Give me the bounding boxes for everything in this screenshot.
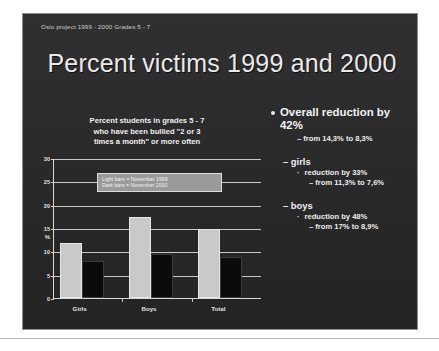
bullet-boys-detail-text: – from 17% to 8,9% <box>309 222 378 231</box>
y-axis-tick-label: 0 <box>47 296 50 302</box>
y-axis-tick-label: 15 <box>44 226 50 232</box>
y-axis-tickmark <box>51 252 54 253</box>
y-axis-tickmark <box>51 206 54 207</box>
bullet-overall-detail: – from 14,3% to 8,3% <box>297 134 413 144</box>
square-bullet-icon: · <box>297 169 299 176</box>
chart-bar-girls-light <box>60 243 82 298</box>
x-axis-tickmark <box>192 299 193 302</box>
chart-gridline <box>54 159 261 160</box>
y-axis-tickmark <box>51 276 54 277</box>
chart-bar-total-dark <box>220 257 242 298</box>
bullet-dot-icon <box>271 111 275 115</box>
x-axis-tick-label: Girls <box>73 305 87 312</box>
chart-caption-line-2: who have been bullied "2 or 3 <box>43 127 251 138</box>
bullet-girls-detail-text: – from 11,3% to 7,6% <box>309 178 384 187</box>
chart-bar-total-light <box>198 229 220 298</box>
bullet-overall-reduction: Overall reduction by 42% <box>271 106 413 132</box>
legend-entry-dark: Dark bars = November 2000 <box>102 182 217 188</box>
y-axis-tick-label: 25 <box>44 179 50 185</box>
square-bullet-icon: · <box>297 213 299 220</box>
chart-caption-line-3: times a month" or more often <box>43 137 251 148</box>
chart-gridline <box>54 229 261 230</box>
bullet-overall-detail-text: – from 14,3% to 8,3% <box>297 134 373 143</box>
slide-header: Oslo project 1999 - 2000 Grades 5 - 7 <box>41 23 150 30</box>
chart-gridline <box>54 252 261 253</box>
bullet-boys-reduction: · reduction by 48% <box>297 212 413 222</box>
bullet-boys-label: – boys <box>283 200 313 211</box>
y-axis-tickmark <box>51 229 54 230</box>
y-axis-tick-label: 20 <box>44 203 50 209</box>
x-axis-tickmark <box>122 299 123 302</box>
chart-gridline <box>54 206 261 207</box>
y-axis-tickmark <box>51 299 54 300</box>
y-axis-tickmark <box>51 159 54 160</box>
chart-bar-girls-dark <box>82 261 104 298</box>
page-canvas: Oslo project 1999 - 2000 Grades 5 - 7 Pe… <box>0 0 439 351</box>
page-title: Percent victims 1999 and 2000 <box>39 49 405 78</box>
page-divider <box>0 338 439 339</box>
bullet-boys-reduction-text: reduction by 48% <box>304 212 367 221</box>
bar-chart: Percent students in grades 5 - 7 who hav… <box>31 102 271 327</box>
chart-bar-boys-dark <box>151 254 173 298</box>
bullet-overall-text: Overall reduction by 42% <box>280 106 390 131</box>
y-axis-tickmark <box>51 182 54 183</box>
bullet-girls: – girls <box>283 156 413 168</box>
bullet-girls-detail: – from 11,3% to 7,6% <box>309 178 413 188</box>
y-axis-tick-label: 10 <box>44 249 50 255</box>
bullet-boys-detail: – from 17% to 8,9% <box>309 222 413 232</box>
presentation-slide: Oslo project 1999 - 2000 Grades 5 - 7 Pe… <box>22 13 418 330</box>
x-axis-tick-label: Total <box>211 305 225 312</box>
bullet-list: Overall reduction by 42% – from 14,3% to… <box>271 106 413 232</box>
y-axis-tick-label: 5 <box>47 273 50 279</box>
chart-legend: Light bars = November 1999 Dark bars = N… <box>97 173 222 192</box>
chart-caption-line-1: Percent students in grades 5 - 7 <box>43 116 251 127</box>
x-axis-tick-label: Boys <box>141 305 156 312</box>
y-axis-tick-label: 30 <box>44 156 50 162</box>
bullet-boys: – boys <box>283 200 413 212</box>
bullet-girls-reduction-text: reduction by 33% <box>304 168 367 177</box>
chart-bar-boys-light <box>129 217 151 298</box>
y-axis-unit-label: % <box>45 234 50 240</box>
bullet-girls-reduction: · reduction by 33% <box>297 168 413 178</box>
bullet-girls-label: – girls <box>283 156 311 167</box>
chart-caption: Percent students in grades 5 - 7 who hav… <box>43 116 251 148</box>
chart-plot-area: Light bars = November 1999 Dark bars = N… <box>53 159 261 299</box>
